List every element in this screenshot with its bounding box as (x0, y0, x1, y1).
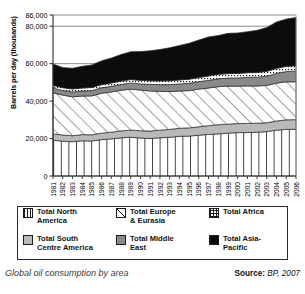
figure-footer: Global oil consumption by area Source: B… (5, 268, 300, 278)
x-tick-label: 1984 (79, 182, 86, 197)
black-swatch-icon (209, 235, 219, 245)
x-tick-label: 2004 (273, 182, 280, 197)
x-tick-label: 1991 (147, 182, 154, 197)
x-tick-label: 1985 (88, 182, 95, 197)
y-tick-label: 20,000 (26, 134, 48, 143)
x-tick-label: 1999 (225, 182, 232, 197)
x-tick-label: 1997 (205, 182, 212, 197)
x-tick-label: 1998 (215, 182, 222, 197)
legend-label-asia-pacific: Total Asia-Pacific (223, 234, 261, 253)
x-tick-label: 1992 (157, 182, 164, 197)
x-tick-label: 1986 (98, 182, 105, 197)
x-tick-label: 1989 (127, 182, 134, 197)
chart-legend: Total NorthAmerica Total Europe& Eurasia… (17, 206, 288, 260)
x-tick-label: 2003 (263, 182, 270, 197)
x-tick-label: 1994 (176, 182, 183, 197)
y-axis-title: Barrels per day (thousands) (9, 3, 18, 123)
x-tick-label: 1983 (69, 182, 76, 197)
legend-item-north-america: Total NorthAmerica (23, 207, 116, 234)
y-tick-label: 80,000 (26, 22, 48, 31)
legend-label-north-america: Total NorthAmerica (37, 207, 77, 226)
vertical-lines-swatch-icon (23, 208, 33, 218)
x-tick-label: 1995 (186, 182, 193, 197)
chart-area: Barrels per day (thousands) (0, 0, 305, 200)
x-tick-label: 1990 (137, 182, 144, 197)
y-tick-label: 86,000 (26, 11, 48, 20)
figure-source: Source: BP, 2007 (235, 269, 300, 278)
legend-item-africa: Total Africa (209, 207, 292, 234)
light-gray-swatch-icon (23, 235, 33, 245)
x-tick-label: 2000 (234, 182, 241, 197)
legend-item-south-centre-america: Total SouthCentre America (23, 234, 116, 261)
x-tick-label: 2005 (283, 182, 290, 197)
y-axis-ticks: 020,00040,00060,00080,00086,000 (26, 11, 53, 181)
x-tick-label: 1996 (195, 182, 202, 197)
source-label: Source: (235, 269, 265, 278)
x-tick-label: 1987 (108, 182, 115, 197)
legend-label-africa: Total Africa (223, 207, 264, 216)
stacked-area-chart: 020,00040,00060,00080,00086,000 19811982… (0, 0, 305, 200)
x-tick-label: 2001 (244, 182, 251, 197)
x-tick-label: 2006 (293, 182, 300, 197)
y-tick-label: 0 (44, 172, 48, 181)
mid-gray-swatch-icon (116, 235, 126, 245)
figure-caption: Global oil consumption by area (5, 268, 129, 278)
x-tick-label: 2002 (254, 182, 261, 197)
diagonal-hatch-swatch-icon (116, 208, 126, 218)
y-tick-label: 40,000 (26, 97, 48, 106)
dotted-grid-swatch-icon (209, 208, 219, 218)
legend-item-middle-east: Total MiddleEast (116, 234, 209, 261)
source-value: BP, 2007 (267, 269, 300, 278)
legend-item-europe-eurasia: Total Europe& Eurasia (116, 207, 209, 234)
x-tick-label: 1982 (59, 182, 66, 197)
legend-label-middle-east: Total MiddleEast (130, 234, 174, 253)
y-tick-label: 60,000 (26, 59, 48, 68)
figure-container: Barrels per day (thousands) (0, 0, 305, 294)
x-axis-ticks: 1981198219831984198519861987198819891990… (50, 176, 300, 197)
legend-item-asia-pacific: Total Asia-Pacific (209, 234, 292, 261)
legend-label-south-centre-america: Total SouthCentre America (37, 234, 93, 253)
legend-label-europe-eurasia: Total Europe& Eurasia (130, 207, 176, 226)
x-tick-label: 1993 (166, 182, 173, 197)
x-tick-label: 1988 (118, 182, 125, 197)
x-tick-label: 1981 (50, 182, 57, 197)
